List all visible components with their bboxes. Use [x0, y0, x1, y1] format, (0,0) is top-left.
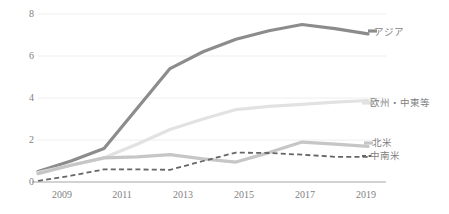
x-tick-label-2013: 2013: [165, 190, 201, 200]
x-tick-label-2019: 2019: [348, 190, 384, 200]
y-tick-label-4: 4: [16, 93, 34, 103]
series-label-latin-america: 中南米: [370, 152, 400, 162]
y-tick-label-2: 2: [16, 135, 34, 145]
series-label-europe-middle-east: 欧州・中東等: [370, 99, 430, 109]
x-tick-label-2009: 2009: [44, 190, 80, 200]
x-tick-label-2015: 2015: [226, 190, 262, 200]
series-lines: [38, 25, 368, 181]
series-label-north-america: 北米: [372, 139, 392, 149]
y-tick-label-6: 6: [16, 51, 34, 61]
series-line-2: [38, 142, 368, 174]
y-tick-label-0: 0: [16, 177, 34, 187]
y-tick-label-8: 8: [16, 9, 34, 19]
x-tick-label-2011: 2011: [104, 190, 140, 200]
series-line-3: [38, 153, 368, 181]
series-label-asia: アジア: [374, 28, 404, 38]
line-chart: 8 6 4 2 0 2009 2011 2013 2015 2017 2019 …: [0, 0, 449, 214]
x-tick-label-2017: 2017: [287, 190, 323, 200]
gridlines: [38, 14, 386, 140]
